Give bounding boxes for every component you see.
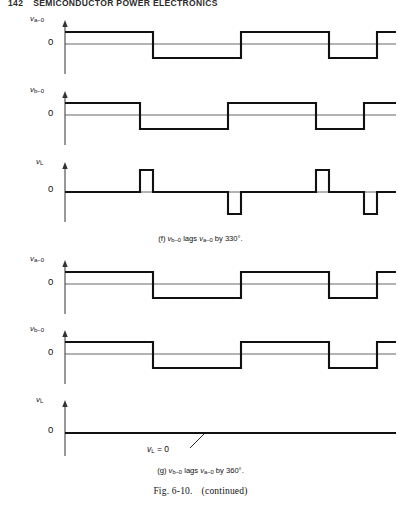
running-head-title: SEMICONDUCTOR POWER ELECTRONICS <box>33 0 217 8</box>
axis-label-f-vL: vL <box>36 157 43 166</box>
panel-g-vb0: vb–0 0 <box>0 324 401 386</box>
axis-label-f-va0: va–0 <box>30 14 44 23</box>
zero-label-f-va0: 0 <box>48 36 53 47</box>
zero-label-f-vL: 0 <box>48 183 53 194</box>
waveform-f-vL <box>0 156 401 226</box>
waveform-f-va0 <box>0 14 401 76</box>
waveform-g-vb0 <box>0 324 401 386</box>
zero-label-g-vb0: 0 <box>48 346 53 357</box>
panel-f-vb0: vb–0 0 <box>0 85 401 147</box>
axis-label-g-va0: va–0 <box>30 254 44 263</box>
figure-caption: Fig. 6-10.(continued) <box>0 486 401 496</box>
zero-label-f-vb0: 0 <box>48 107 53 118</box>
caption-g: (g) vb–0 lags va–0 by 360°. <box>0 466 401 475</box>
waveform-f-vb0 <box>0 85 401 147</box>
waveform-g-vL <box>0 394 401 458</box>
caption-f: (f) vb–0 lags va–0 by 330°. <box>0 234 401 243</box>
panel-g-va0: va–0 0 <box>0 254 401 316</box>
figure-number: Fig. 6-10. <box>153 486 192 496</box>
panel-g-vL: vL 0 vL = 0 <box>0 394 401 458</box>
figure-continued: (continued) <box>202 486 248 496</box>
axis-label-g-vb0: vb–0 <box>30 324 44 333</box>
axis-label-f-vb0: vb–0 <box>30 85 44 94</box>
panel-f-vL: vL 0 <box>0 156 401 226</box>
waveform-g-va0 <box>0 254 401 316</box>
annotation-vL-equals-zero: vL = 0 <box>147 444 169 454</box>
panel-f-va0: va–0 0 <box>0 14 401 76</box>
zero-label-g-va0: 0 <box>48 276 53 287</box>
axis-label-g-vL: vL <box>36 395 43 404</box>
zero-label-g-vL: 0 <box>48 424 53 435</box>
running-head: 142SEMICONDUCTOR POWER ELECTRONICS <box>8 0 393 8</box>
page-folio: 142 <box>8 0 23 8</box>
